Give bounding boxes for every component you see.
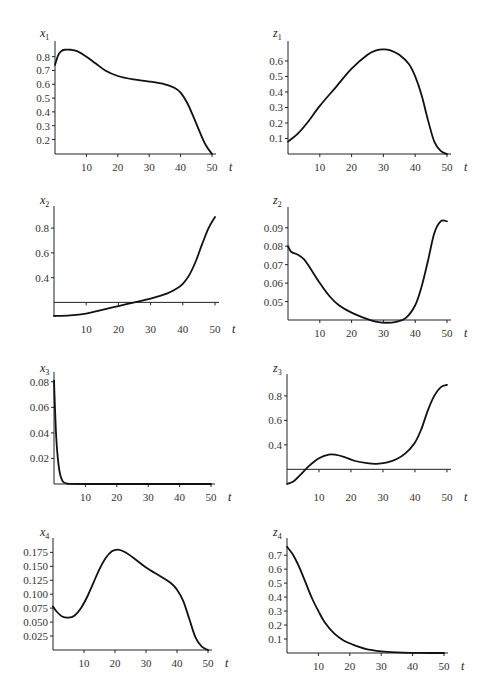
- y-tick-label: 0.6: [269, 55, 283, 67]
- x-tick-label: 10: [79, 657, 91, 669]
- y-tick-label: 0.06: [264, 277, 284, 289]
- x-axis-label: t: [229, 160, 233, 174]
- y-tick-label: 0.6: [36, 78, 50, 90]
- chart-z3: 0.40.60.81020304050tz3: [268, 361, 468, 504]
- x-tick-label: 50: [442, 327, 454, 339]
- x-tick-label: 10: [313, 660, 325, 672]
- data-curve: [55, 50, 212, 154]
- data-curve: [287, 547, 444, 653]
- x-tick-label: 30: [378, 491, 390, 503]
- x-tick-label: 10: [81, 323, 93, 335]
- chart-x4: 0.0250.0500.0750.1000.1250.1500.17510203…: [23, 525, 229, 670]
- chart-x1: 0.20.30.40.50.60.70.81020304050tx1: [36, 26, 233, 174]
- data-curve: [288, 49, 447, 154]
- y-tick-label: 0.2: [268, 619, 282, 631]
- y-tick-label: 0.4: [36, 106, 50, 118]
- y-tick-label: 0.175: [23, 546, 48, 558]
- x-tick-label: 30: [378, 161, 390, 173]
- y-tick-label: 0.5: [268, 577, 282, 589]
- y-tick-label: 0.1: [269, 132, 283, 144]
- data-curve: [288, 220, 447, 322]
- y-tick-label: 0.6: [268, 563, 282, 575]
- y-tick-label: 0.4: [268, 439, 282, 451]
- data-curve: [54, 217, 215, 316]
- y-tick-label: 0.08: [264, 240, 284, 252]
- x-tick-label: 20: [111, 491, 123, 503]
- x-tick-label: 40: [177, 323, 189, 335]
- y-tick-label: 0.4: [268, 591, 282, 603]
- x-axis-label: t: [464, 160, 468, 174]
- y-tick-label: 0.150: [23, 560, 48, 572]
- x-tick-label: 40: [410, 161, 422, 173]
- chart-z2: 0.050.060.070.080.091020304050tz2: [264, 193, 468, 340]
- y-tick-label: 0.2: [36, 134, 50, 146]
- y-axis-label: x4: [39, 525, 49, 541]
- y-tick-label: 0.125: [23, 574, 48, 586]
- y-tick-label: 0.08: [30, 376, 50, 388]
- y-axis-label: x2: [39, 193, 49, 209]
- x-tick-label: 20: [113, 323, 125, 335]
- y-tick-label: 0.06: [30, 401, 50, 413]
- chart-x2: 0.40.60.81020304050tx2: [35, 193, 236, 336]
- x-tick-label: 20: [344, 660, 356, 672]
- y-axis-label: x3: [39, 361, 49, 377]
- x-tick-label: 50: [210, 323, 222, 335]
- y-tick-label: 0.6: [268, 414, 282, 426]
- x-tick-label: 20: [346, 491, 358, 503]
- y-tick-label: 0.100: [23, 588, 48, 600]
- x-axis-label: t: [461, 659, 465, 673]
- chart-z1: 0.10.20.30.40.50.61020304050tz1: [269, 26, 468, 174]
- x-axis-label: t: [228, 490, 232, 504]
- y-tick-label: 0.5: [269, 70, 283, 82]
- x-tick-label: 40: [410, 327, 422, 339]
- y-tick-label: 0.075: [23, 602, 48, 614]
- x-tick-label: 10: [81, 161, 93, 173]
- y-axis-label: x1: [39, 26, 49, 42]
- y-axis-label: z3: [272, 361, 282, 377]
- y-tick-label: 0.09: [264, 222, 284, 234]
- x-tick-label: 20: [346, 327, 358, 339]
- y-tick-label: 0.04: [30, 427, 50, 439]
- x-tick-label: 30: [378, 327, 390, 339]
- y-tick-label: 0.02: [30, 452, 49, 464]
- y-tick-label: 0.7: [36, 64, 50, 76]
- y-tick-label: 0.07: [264, 259, 284, 271]
- y-axis-label: z4: [272, 525, 282, 541]
- y-tick-label: 0.1: [268, 633, 282, 645]
- y-tick-label: 0.4: [35, 272, 49, 284]
- y-tick-label: 0.8: [35, 222, 49, 234]
- x-axis-label: t: [464, 326, 468, 340]
- x-tick-label: 50: [439, 660, 451, 672]
- y-tick-label: 0.2: [269, 117, 283, 129]
- y-tick-label: 0.7: [268, 549, 282, 561]
- chart-z4: 0.10.20.30.40.50.60.71020304050tz4: [268, 525, 465, 673]
- x-tick-label: 20: [346, 161, 358, 173]
- x-tick-label: 50: [442, 491, 454, 503]
- data-curve: [54, 381, 211, 484]
- x-tick-label: 30: [144, 161, 156, 173]
- x-tick-label: 30: [145, 323, 157, 335]
- y-axis-label: z1: [272, 26, 282, 42]
- y-tick-label: 0.3: [36, 120, 50, 132]
- x-tick-label: 20: [110, 657, 122, 669]
- x-tick-label: 40: [175, 161, 187, 173]
- x-axis-label: t: [225, 656, 229, 670]
- y-tick-label: 0.4: [269, 86, 283, 98]
- x-tick-label: 50: [206, 491, 218, 503]
- x-tick-label: 30: [143, 491, 155, 503]
- y-tick-label: 0.05: [264, 296, 284, 308]
- x-axis-label: t: [464, 490, 468, 504]
- x-tick-label: 50: [203, 657, 215, 669]
- x-tick-label: 50: [442, 161, 454, 173]
- x-tick-label: 40: [410, 491, 422, 503]
- x-tick-label: 30: [376, 660, 388, 672]
- x-tick-label: 20: [112, 161, 124, 173]
- x-tick-label: 30: [141, 657, 153, 669]
- y-tick-label: 0.8: [268, 390, 282, 402]
- y-tick-label: 0.8: [36, 51, 50, 63]
- figure-grid: 0.20.30.40.50.60.70.81020304050tx10.10.2…: [0, 0, 488, 690]
- x-tick-label: 40: [172, 657, 184, 669]
- y-tick-label: 0.3: [269, 101, 283, 113]
- x-tick-label: 10: [314, 327, 326, 339]
- x-tick-label: 10: [314, 491, 326, 503]
